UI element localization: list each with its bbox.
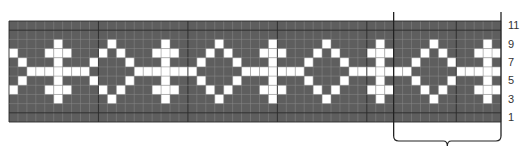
contrast-stitch bbox=[268, 49, 277, 58]
contrast-stitch bbox=[376, 39, 385, 48]
contrast-stitch bbox=[492, 85, 501, 94]
knitting-chart bbox=[0, 0, 528, 153]
contrast-stitch bbox=[412, 76, 421, 85]
contrast-stitch bbox=[54, 76, 63, 85]
contrast-stitch bbox=[90, 76, 99, 85]
contrast-stitch bbox=[394, 67, 403, 76]
contrast-stitch bbox=[376, 85, 385, 94]
contrast-stitch bbox=[420, 85, 429, 94]
contrast-stitch bbox=[483, 85, 492, 94]
contrast-stitch bbox=[152, 49, 161, 58]
contrast-stitch bbox=[215, 39, 224, 48]
contrast-stitch bbox=[170, 85, 179, 94]
row-label-11: 11 bbox=[508, 20, 519, 31]
contrast-stitch bbox=[54, 49, 63, 58]
contrast-stitch bbox=[385, 49, 394, 58]
contrast-stitch bbox=[367, 85, 376, 94]
contrast-stitch bbox=[474, 85, 483, 94]
contrast-stitch bbox=[251, 67, 260, 76]
contrast-stitch bbox=[224, 85, 233, 94]
contrast-stitch bbox=[98, 85, 107, 94]
row-label-1: 1 bbox=[508, 112, 514, 123]
contrast-stitch bbox=[429, 39, 438, 48]
contrast-stitch bbox=[54, 58, 63, 67]
contrast-stitch bbox=[465, 67, 474, 76]
contrast-stitch bbox=[376, 58, 385, 67]
contrast-stitch bbox=[268, 76, 277, 85]
contrast-stitch bbox=[179, 67, 188, 76]
contrast-stitch bbox=[376, 67, 385, 76]
contrast-stitch bbox=[483, 58, 492, 67]
contrast-stitch bbox=[295, 67, 304, 76]
contrast-stitch bbox=[206, 49, 215, 58]
contrast-stitch bbox=[54, 39, 63, 48]
contrast-stitch bbox=[107, 39, 116, 48]
contrast-stitch bbox=[385, 85, 394, 94]
contrast-stitch bbox=[322, 39, 331, 48]
contrast-stitch bbox=[268, 85, 277, 94]
contrast-stitch bbox=[483, 67, 492, 76]
row-label-9: 9 bbox=[508, 39, 514, 50]
contrast-stitch bbox=[376, 49, 385, 58]
contrast-stitch bbox=[358, 67, 367, 76]
contrast-stitch bbox=[224, 49, 233, 58]
contrast-stitch bbox=[277, 85, 286, 94]
contrast-stitch bbox=[161, 85, 170, 94]
contrast-stitch bbox=[483, 39, 492, 48]
contrast-stitch bbox=[233, 58, 242, 67]
contrast-stitch bbox=[376, 94, 385, 103]
contrast-stitch bbox=[340, 58, 349, 67]
contrast-stitch bbox=[403, 67, 412, 76]
contrast-stitch bbox=[277, 49, 286, 58]
contrast-stitch bbox=[313, 85, 322, 94]
contrast-stitch bbox=[170, 49, 179, 58]
contrast-stitch bbox=[304, 76, 313, 85]
contrast-stitch bbox=[18, 58, 27, 67]
contrast-stitch bbox=[45, 85, 54, 94]
contrast-stitch bbox=[63, 85, 72, 94]
contrast-stitch bbox=[420, 49, 429, 58]
contrast-stitch bbox=[161, 67, 170, 76]
contrast-stitch bbox=[161, 58, 170, 67]
contrast-stitch bbox=[9, 85, 18, 94]
contrast-stitch bbox=[90, 58, 99, 67]
contrast-stitch bbox=[188, 67, 197, 76]
contrast-stitch bbox=[134, 67, 143, 76]
contrast-stitch bbox=[161, 76, 170, 85]
contrast-stitch bbox=[233, 76, 242, 85]
contrast-stitch bbox=[259, 49, 268, 58]
contrast-stitch bbox=[376, 76, 385, 85]
contrast-stitch bbox=[483, 49, 492, 58]
contrast-stitch bbox=[242, 67, 251, 76]
contrast-stitch bbox=[268, 67, 277, 76]
repeat-brace bbox=[394, 136, 501, 146]
contrast-stitch bbox=[331, 85, 340, 94]
contrast-stitch bbox=[349, 67, 358, 76]
contrast-stitch bbox=[63, 49, 72, 58]
contrast-stitch bbox=[170, 67, 179, 76]
contrast-stitch bbox=[456, 67, 465, 76]
contrast-stitch bbox=[304, 58, 313, 67]
contrast-stitch bbox=[268, 94, 277, 103]
contrast-stitch bbox=[483, 76, 492, 85]
contrast-stitch bbox=[72, 67, 81, 76]
contrast-stitch bbox=[322, 94, 331, 103]
contrast-stitch bbox=[36, 67, 45, 76]
contrast-stitch bbox=[63, 67, 72, 76]
contrast-stitch bbox=[9, 49, 18, 58]
contrast-stitch bbox=[152, 67, 161, 76]
contrast-stitch bbox=[197, 58, 206, 67]
row-label-3: 3 bbox=[508, 94, 514, 105]
contrast-stitch bbox=[206, 85, 215, 94]
contrast-stitch bbox=[367, 67, 376, 76]
contrast-stitch bbox=[340, 76, 349, 85]
contrast-stitch bbox=[259, 85, 268, 94]
contrast-stitch bbox=[474, 49, 483, 58]
contrast-stitch bbox=[412, 58, 421, 67]
contrast-stitch bbox=[107, 94, 116, 103]
contrast-stitch bbox=[438, 49, 447, 58]
contrast-stitch bbox=[161, 49, 170, 58]
contrast-stitch bbox=[385, 67, 394, 76]
contrast-stitch bbox=[45, 67, 54, 76]
contrast-stitch bbox=[18, 76, 27, 85]
